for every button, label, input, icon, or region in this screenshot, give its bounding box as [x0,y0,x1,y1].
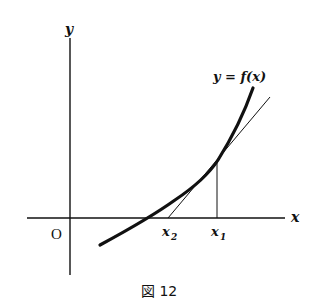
svg-text:x: x [210,224,219,239]
x-axis-label: x [290,209,300,225]
y-axis-label: y [64,21,74,37]
function-curve [100,88,253,245]
newton-method-diagram: y x O y = f(x) x 2 x 1 図 12 [0,0,319,306]
curve-label: y = f(x) [212,69,266,84]
x1-label: x 1 [210,224,226,242]
svg-text:x: x [161,224,170,239]
x2-label: x 2 [161,224,177,242]
figure-caption: 図 12 [141,283,177,299]
origin-label: O [51,226,62,242]
svg-text:1: 1 [220,232,226,242]
tangent-line [168,97,270,218]
svg-text:2: 2 [170,232,177,242]
